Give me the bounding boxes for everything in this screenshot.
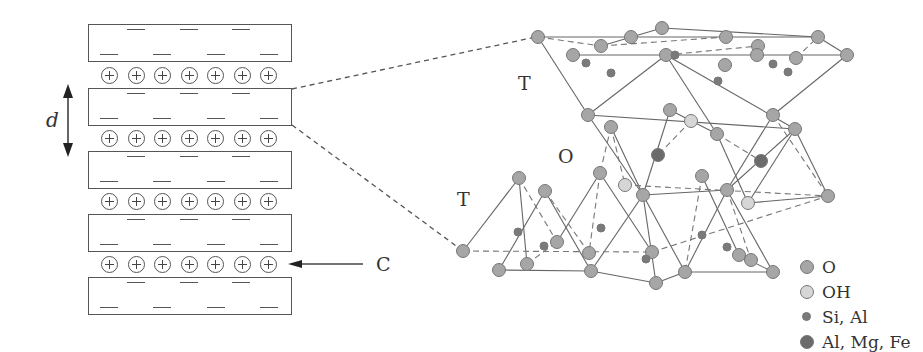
bond-line bbox=[652, 196, 828, 252]
bond-line bbox=[588, 55, 666, 115]
legend-label: O bbox=[822, 257, 836, 277]
oxygen-atom bbox=[721, 184, 734, 197]
d-spacing-label: d bbox=[46, 108, 59, 132]
atoms bbox=[457, 22, 854, 290]
oxygen-atom bbox=[679, 266, 692, 279]
oxygen-atom bbox=[751, 49, 764, 62]
legend-label: OH bbox=[822, 282, 851, 302]
structure-drawing bbox=[0, 0, 923, 352]
oxygen-atom bbox=[720, 31, 733, 44]
oxygen-atom bbox=[637, 189, 650, 202]
silicon-aluminum-atom bbox=[582, 59, 590, 67]
cation-pointer-arrow bbox=[288, 260, 363, 268]
octahedral-cation-atom bbox=[652, 149, 665, 162]
oxygen-atom bbox=[767, 266, 780, 279]
silicon-aluminum-atom bbox=[714, 77, 722, 85]
oxygen-atom bbox=[457, 245, 470, 258]
oxygen-atom bbox=[583, 247, 596, 260]
bond-line bbox=[591, 271, 656, 283]
hydroxyl-atom-icon bbox=[800, 285, 814, 299]
legend-item-hydroxyl: OH bbox=[800, 279, 911, 304]
bond-line bbox=[685, 176, 702, 272]
oxygen-atom bbox=[567, 49, 580, 62]
oxygen-atom bbox=[767, 109, 780, 122]
tetrahedral-sheet-label-top: T bbox=[518, 72, 531, 94]
oxygen-atom bbox=[733, 249, 746, 262]
legend-label: Si, Al bbox=[822, 307, 868, 327]
legend-item-si-al: Si, Al bbox=[800, 304, 911, 329]
oxygen-atom bbox=[532, 31, 545, 44]
silicon-aluminum-atom bbox=[607, 69, 615, 77]
legend-item-al-mg-fe: Al, Mg, Fe bbox=[800, 329, 911, 352]
oxygen-atom bbox=[595, 40, 608, 53]
oxygen-atom bbox=[605, 121, 618, 134]
bond-line bbox=[662, 28, 818, 37]
bond-line bbox=[795, 129, 828, 196]
bond-line bbox=[463, 251, 652, 252]
legend-item-oxygen: O bbox=[800, 254, 911, 279]
octahedral-cation-atom bbox=[755, 155, 768, 168]
oxygen-atom-icon bbox=[800, 260, 814, 274]
hydroxyl-atom bbox=[685, 115, 698, 128]
oxygen-atom bbox=[719, 59, 732, 72]
hydroxyl-atom bbox=[619, 179, 632, 192]
oxygen-atom bbox=[539, 185, 552, 198]
oxygen-atom bbox=[551, 236, 564, 249]
bond-line bbox=[538, 37, 588, 115]
silicon-aluminum-atom bbox=[698, 231, 706, 239]
oxygen-atom bbox=[822, 190, 835, 203]
silicon-aluminum-atom bbox=[671, 51, 679, 59]
bond-line bbox=[463, 178, 519, 251]
silicon-aluminum-atom bbox=[769, 60, 777, 68]
bond-line bbox=[658, 121, 691, 155]
bond-line bbox=[499, 270, 591, 271]
oxygen-atom bbox=[745, 254, 758, 267]
octahedral-cation-atom-icon bbox=[800, 335, 814, 349]
bond-line bbox=[545, 191, 591, 271]
bond-line bbox=[519, 178, 557, 242]
oxygen-atom bbox=[513, 172, 526, 185]
bond-line bbox=[666, 46, 758, 55]
oxygen-atom bbox=[664, 104, 677, 117]
silicon-aluminum-atom bbox=[514, 228, 522, 236]
octahedral-sheet-label: O bbox=[558, 145, 574, 167]
bond-line bbox=[643, 190, 727, 195]
oxygen-atom bbox=[594, 167, 607, 180]
zoom-lines bbox=[292, 37, 536, 251]
bond-line bbox=[773, 55, 847, 115]
tetrahedral-sheet-label-bottom: T bbox=[457, 188, 470, 210]
bond-line bbox=[591, 195, 643, 271]
oxygen-atom bbox=[582, 109, 595, 122]
silicon-aluminum-atom-icon bbox=[802, 312, 811, 321]
oxygen-atom bbox=[493, 264, 506, 277]
oxygen-atom bbox=[812, 31, 825, 44]
cation-label: C bbox=[376, 253, 391, 275]
legend-label: Al, Mg, Fe bbox=[822, 332, 911, 352]
d-spacing-arrow bbox=[63, 84, 73, 157]
silicon-aluminum-atom bbox=[597, 224, 605, 232]
oxygen-atom bbox=[625, 31, 638, 44]
legend: O OH Si, Al Al, Mg, Fe bbox=[800, 254, 911, 352]
oxygen-atom bbox=[711, 128, 724, 141]
oxygen-atom bbox=[521, 258, 534, 271]
oxygen-atom bbox=[696, 170, 709, 183]
bond-line bbox=[643, 195, 656, 283]
bond-line bbox=[611, 127, 625, 185]
bond-line bbox=[589, 173, 600, 253]
bond-line bbox=[685, 190, 727, 272]
silicon-aluminum-atom bbox=[723, 243, 731, 251]
oxygen-atom bbox=[789, 123, 802, 136]
bond-line bbox=[601, 37, 726, 46]
hydroxyl-atom bbox=[742, 197, 755, 210]
silicon-aluminum-atom bbox=[784, 68, 792, 76]
silicon-aluminum-atom bbox=[642, 255, 650, 263]
oxygen-atom bbox=[841, 49, 854, 62]
bond-line bbox=[538, 37, 601, 46]
oxygen-atom bbox=[650, 277, 663, 290]
oxygen-atom bbox=[585, 265, 598, 278]
silicon-aluminum-atom bbox=[540, 242, 548, 250]
oxygen-atom bbox=[656, 22, 669, 35]
oxygen-atom bbox=[790, 52, 803, 65]
bond-line bbox=[557, 173, 600, 242]
